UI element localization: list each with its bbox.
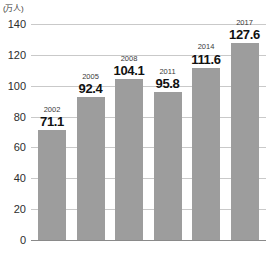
- bar-value-label: 111.6: [191, 53, 221, 66]
- bar-value-label: 104.1: [113, 64, 144, 77]
- bar-group: 127.62017: [231, 24, 259, 240]
- bar-year-label: 2008: [121, 55, 138, 63]
- bar-series: 71.1200292.42005104.1200895.82011111.620…: [31, 24, 258, 240]
- y-axis-tick-label: 60: [14, 142, 26, 153]
- bar: [154, 92, 182, 240]
- bar-year-label: 2011: [159, 68, 175, 76]
- bar-group: 111.62014: [192, 24, 220, 240]
- bar-value-label: 95.8: [155, 77, 179, 90]
- bar-year-label: 2002: [44, 106, 61, 114]
- bar-value-label: 71.1: [40, 115, 64, 128]
- bar-chart: (万人) 020406080100120140 71.1200292.42005…: [0, 0, 271, 258]
- bar: [77, 97, 105, 240]
- bar-group: 92.42005: [77, 24, 105, 240]
- y-axis-tick-label: 80: [14, 111, 26, 122]
- bar-year-label: 2017: [236, 19, 253, 27]
- plot-area: 020406080100120140 71.1200292.42005104.1…: [31, 24, 266, 240]
- bar-value-label: 92.4: [78, 82, 102, 95]
- x-axis-line: [31, 240, 266, 241]
- bar-group: 104.12008: [115, 24, 143, 240]
- y-axis-tick-label: 0: [20, 235, 26, 246]
- y-axis-tick-label: 20: [14, 204, 26, 215]
- bar: [115, 79, 143, 240]
- y-axis-tick-label: 40: [14, 173, 26, 184]
- bar: [38, 130, 66, 240]
- y-axis-tick-label: 120: [8, 49, 26, 60]
- y-axis-unit-label: (万人): [3, 2, 24, 13]
- bar-year-label: 2005: [82, 73, 99, 81]
- bar: [231, 43, 259, 240]
- y-axis-tick-label: 100: [8, 80, 26, 91]
- bar-year-label: 2014: [198, 43, 215, 51]
- bar-group: 95.82011: [154, 24, 182, 240]
- bar-group: 71.12002: [38, 24, 66, 240]
- bar: [192, 68, 220, 240]
- bar-value-label: 127.6: [229, 28, 260, 41]
- y-axis-tick-label: 140: [8, 19, 26, 30]
